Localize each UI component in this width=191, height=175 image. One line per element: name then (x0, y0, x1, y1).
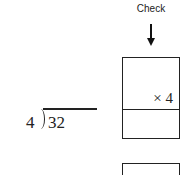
arrow-head-icon (147, 38, 155, 46)
check-label: Check (131, 3, 171, 14)
multiplier-text: × 4 (153, 90, 173, 107)
divisor: 4 (26, 113, 35, 133)
next-answer-box[interactable] (122, 163, 180, 175)
division-bracket (38, 109, 45, 129)
check-top-cell[interactable]: × 4 (122, 57, 180, 110)
down-arrow-icon (150, 24, 152, 39)
check-bottom-cell[interactable] (122, 109, 180, 139)
division-bar (43, 108, 97, 110)
dividend: 32 (48, 113, 65, 133)
